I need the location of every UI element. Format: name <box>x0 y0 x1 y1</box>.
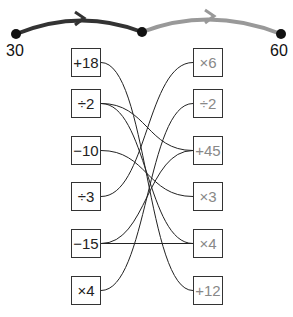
left-op-box-1[interactable]: ÷2 <box>71 89 101 118</box>
right-op-box-2[interactable]: +45 <box>193 136 223 165</box>
left-op-box-2[interactable]: −10 <box>71 136 101 165</box>
label-end: 60 <box>270 42 288 60</box>
left-op-box-4[interactable]: −15 <box>71 229 101 258</box>
label-start: 30 <box>6 42 24 60</box>
right-op-box-0[interactable]: ×6 <box>193 48 223 77</box>
point-end <box>276 29 286 39</box>
connection-7 <box>101 104 193 291</box>
right-op-box-1[interactable]: ÷2 <box>193 89 223 118</box>
connection-0 <box>101 63 193 291</box>
diagram-canvas <box>0 0 293 317</box>
left-op-box-5[interactable]: ×4 <box>71 276 101 305</box>
point-start <box>11 29 21 39</box>
connection-lines <box>101 63 193 291</box>
right-op-box-3[interactable]: ×3 <box>193 182 223 211</box>
connection-3 <box>101 151 193 197</box>
point-middle <box>137 27 147 37</box>
right-op-box-4[interactable]: ×4 <box>193 229 223 258</box>
arc-second-half <box>142 19 281 34</box>
left-op-box-0[interactable]: +18 <box>71 48 101 77</box>
left-op-box-3[interactable]: ÷3 <box>71 182 101 211</box>
right-op-box-5[interactable]: +12 <box>193 276 223 305</box>
